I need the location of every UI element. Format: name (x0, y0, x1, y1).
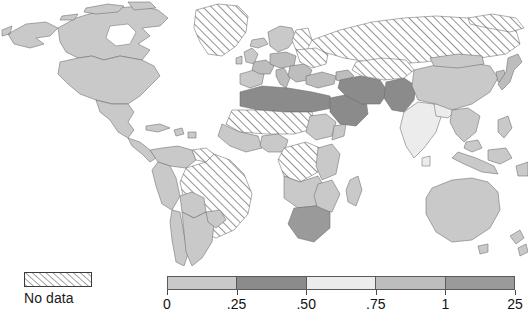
scale-segment-1 (168, 277, 237, 289)
scale-segment-3 (307, 277, 376, 289)
scale-tick-label-5: 25 (507, 296, 523, 312)
scale-tick-3 (376, 290, 377, 295)
color-scale-labels: 0.25.50.75125 (167, 296, 515, 316)
scale-tick-label-0: 0 (163, 296, 171, 312)
scale-segment-4 (376, 277, 445, 289)
country-sri-lanka (422, 156, 430, 166)
world-map-svg: .bin1 { fill:#c9c9c9; } .bin2 { fill:#8b… (0, 0, 528, 266)
scale-tick-label-2: .50 (296, 296, 315, 312)
scale-tick-label-1: .25 (227, 296, 246, 312)
scale-segment-5 (446, 277, 514, 289)
map-area: .bin1 { fill:#c9c9c9; } .bin2 { fill:#8b… (0, 0, 528, 266)
world-choropleth-figure: .bin1 { fill:#c9c9c9; } .bin2 { fill:#8b… (0, 0, 528, 321)
scale-tick-label-3: .75 (366, 296, 385, 312)
scale-tick-5 (515, 290, 516, 295)
scale-tick-0 (167, 290, 168, 295)
scale-tick-2 (306, 290, 307, 295)
scale-tick-1 (237, 290, 238, 295)
legend-no-data: No data (24, 272, 144, 318)
scale-segment-2 (237, 277, 306, 289)
legend-color-scale: 0.25.50.75125 (167, 276, 515, 318)
country-sahel-band (226, 110, 316, 134)
no-data-swatch (24, 272, 92, 287)
scale-tick-label-4: 1 (441, 296, 449, 312)
no-data-label: No data (24, 290, 144, 306)
scale-tick-4 (445, 290, 446, 295)
country-tasmania (478, 244, 488, 254)
color-scale-bar (167, 276, 515, 290)
